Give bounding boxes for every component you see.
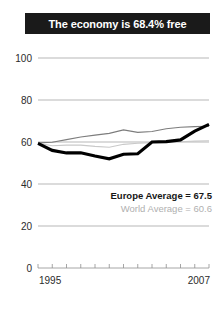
y-axis-labels: 020406080100 (15, 53, 32, 274)
line-chart-svg: 020406080100 19952007 (0, 0, 216, 311)
series-line-europe (38, 126, 209, 143)
legend-world-average: World Average = 60.6 (96, 203, 212, 216)
x-axis-labels: 19952007 (39, 275, 210, 286)
y-axis-tick-label-0: 0 (26, 263, 32, 274)
y-axis-tick-label-100: 100 (15, 53, 32, 64)
y-axis-tick-label-40: 40 (21, 179, 33, 190)
x-axis (38, 264, 209, 268)
x-axis-label-end: 2007 (188, 275, 211, 286)
x-axis-label-start: 1995 (39, 275, 62, 286)
data-series (38, 124, 209, 158)
chart-legend: Europe Average = 67.5 World Average = 60… (96, 190, 212, 216)
y-axis-tick-label-20: 20 (21, 221, 33, 232)
chart-container: 020406080100 19952007 (0, 0, 216, 311)
legend-europe-average: Europe Average = 67.5 (96, 190, 212, 203)
chart-page: The economy is 68.4% free 020406080100 1… (0, 0, 216, 311)
y-axis-tick-label-80: 80 (21, 95, 33, 106)
y-axis-tick-label-60: 60 (21, 137, 33, 148)
